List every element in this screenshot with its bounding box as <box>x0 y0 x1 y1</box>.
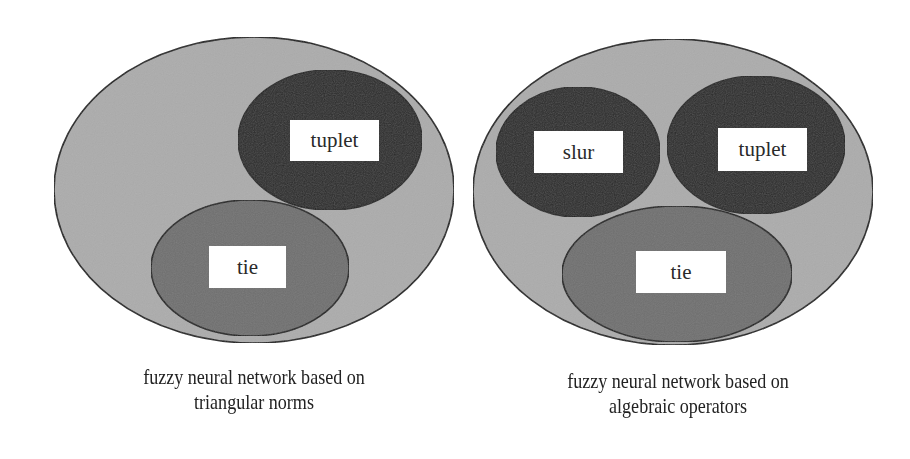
set-label-slur: slur <box>534 131 623 173</box>
caption-line-1: fuzzy neural network based on <box>549 369 807 394</box>
caption-line-2: triangular norms <box>125 390 383 415</box>
caption-algebraic-operators: fuzzy neural network based on algebraic … <box>549 369 807 419</box>
set-label-tuplet: tuplet <box>290 120 379 161</box>
caption-line-2: algebraic operators <box>549 394 807 419</box>
set-label-tie: tie <box>636 251 726 293</box>
caption-line-1: fuzzy neural network based on <box>125 365 383 390</box>
set-label-tuplet: tuplet <box>718 128 807 171</box>
set-label-tie: tie <box>209 246 286 288</box>
caption-triangular-norms: fuzzy neural network based on triangular… <box>125 365 383 415</box>
